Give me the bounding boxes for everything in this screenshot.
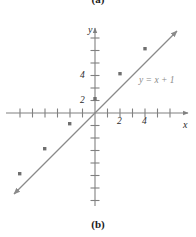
panel-label-a: (a): [0, 0, 196, 5]
data-point-marker: [143, 47, 146, 50]
plot-svg: [0, 14, 196, 216]
data-point-marker: [118, 72, 121, 75]
data-point-marker: [93, 97, 96, 100]
x-axis: [6, 109, 188, 118]
x-tick-label-4: 4: [142, 117, 147, 127]
y-tick-label-2: 2: [80, 96, 85, 106]
y-tick-label-4: 4: [80, 71, 85, 81]
data-point-marker: [18, 172, 21, 175]
coordinate-plane-plot: y x 4 2 2 4 y = x + 1: [0, 14, 196, 216]
x-axis-label: x: [183, 120, 187, 130]
x-tick-label-2: 2: [117, 117, 122, 127]
equation-annotation: y = x + 1: [139, 76, 175, 86]
figure-container: (a): [0, 0, 196, 237]
data-point-marker: [43, 147, 46, 150]
panel-label-b: (b): [0, 218, 196, 230]
y-axis-label: y: [88, 25, 92, 35]
data-point-marker: [68, 122, 71, 125]
